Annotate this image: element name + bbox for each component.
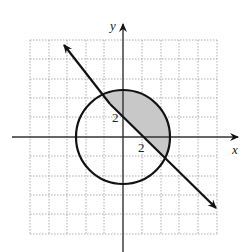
y-tick-label: 2: [112, 110, 119, 125]
line-curve: [64, 45, 110, 104]
x-tick-label: 2: [138, 140, 145, 155]
graph: y x 2 2: [0, 0, 245, 252]
x-axis-label: x: [231, 142, 238, 157]
y-axis-label: y: [108, 18, 116, 33]
